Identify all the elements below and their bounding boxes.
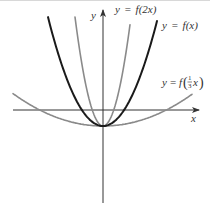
svg-text:): ): [199, 75, 204, 91]
y-axis-label: y: [90, 9, 96, 21]
graph-canvas: y x y = f(2x) y = f(x) y = f ( 1 3 x ): [0, 0, 210, 209]
x-axis-label: x: [190, 112, 196, 124]
svg-text:=: =: [170, 76, 176, 88]
svg-text:3: 3: [188, 82, 192, 90]
label-f-x: y = f(x): [161, 19, 198, 32]
svg-text:1: 1: [188, 74, 192, 82]
label-f-third-x: y = f ( 1 3 x ): [161, 74, 204, 91]
svg-text:x: x: [192, 76, 198, 88]
label-f-2x: y = f(2x): [114, 3, 157, 16]
svg-text:y: y: [161, 76, 167, 88]
graph-figure: y x y = f(2x) y = f(x) y = f ( 1 3 x ): [0, 0, 210, 209]
